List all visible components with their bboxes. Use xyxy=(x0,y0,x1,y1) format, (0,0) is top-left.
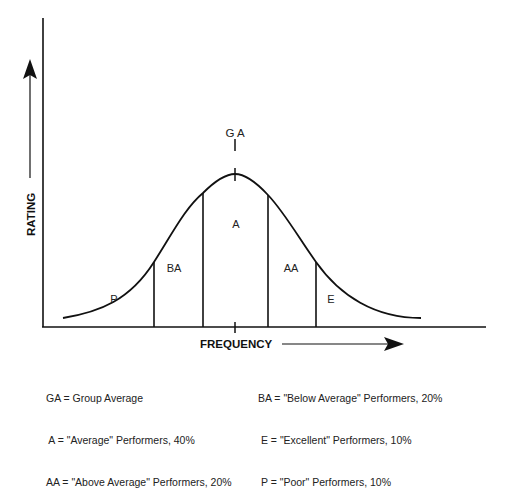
legend-left: GA = Group Average A = "Average" Perform… xyxy=(46,363,232,492)
x-axis-title: FREQUENCY xyxy=(200,338,273,350)
legend-item-a: A = "Average" Performers, 40% xyxy=(46,433,232,447)
frequency-arrow-icon xyxy=(282,337,404,351)
region-label-p: P xyxy=(110,293,117,305)
region-label-ba: BA xyxy=(167,262,182,274)
legend-item-p: P = "Poor" Performers, 10% xyxy=(258,475,442,489)
y-axis-title: RATING xyxy=(25,193,37,236)
region-label-e: E xyxy=(327,293,334,305)
group-average-label: G A xyxy=(225,127,245,139)
legend-item-e: E = "Excellent" Performers, 10% xyxy=(258,433,442,447)
legend-item-ga: GA = Group Average xyxy=(46,391,232,405)
legend-item-aa: AA = "Above Average" Performers, 20% xyxy=(46,475,232,489)
region-label-aa: AA xyxy=(284,262,299,274)
legend-item-ba: BA = "Below Average" Performers, 20% xyxy=(258,391,442,405)
rating-arrow-icon xyxy=(23,59,37,178)
region-label-a: A xyxy=(232,218,240,230)
legend-right: BA = "Below Average" Performers, 20% E =… xyxy=(258,363,442,492)
